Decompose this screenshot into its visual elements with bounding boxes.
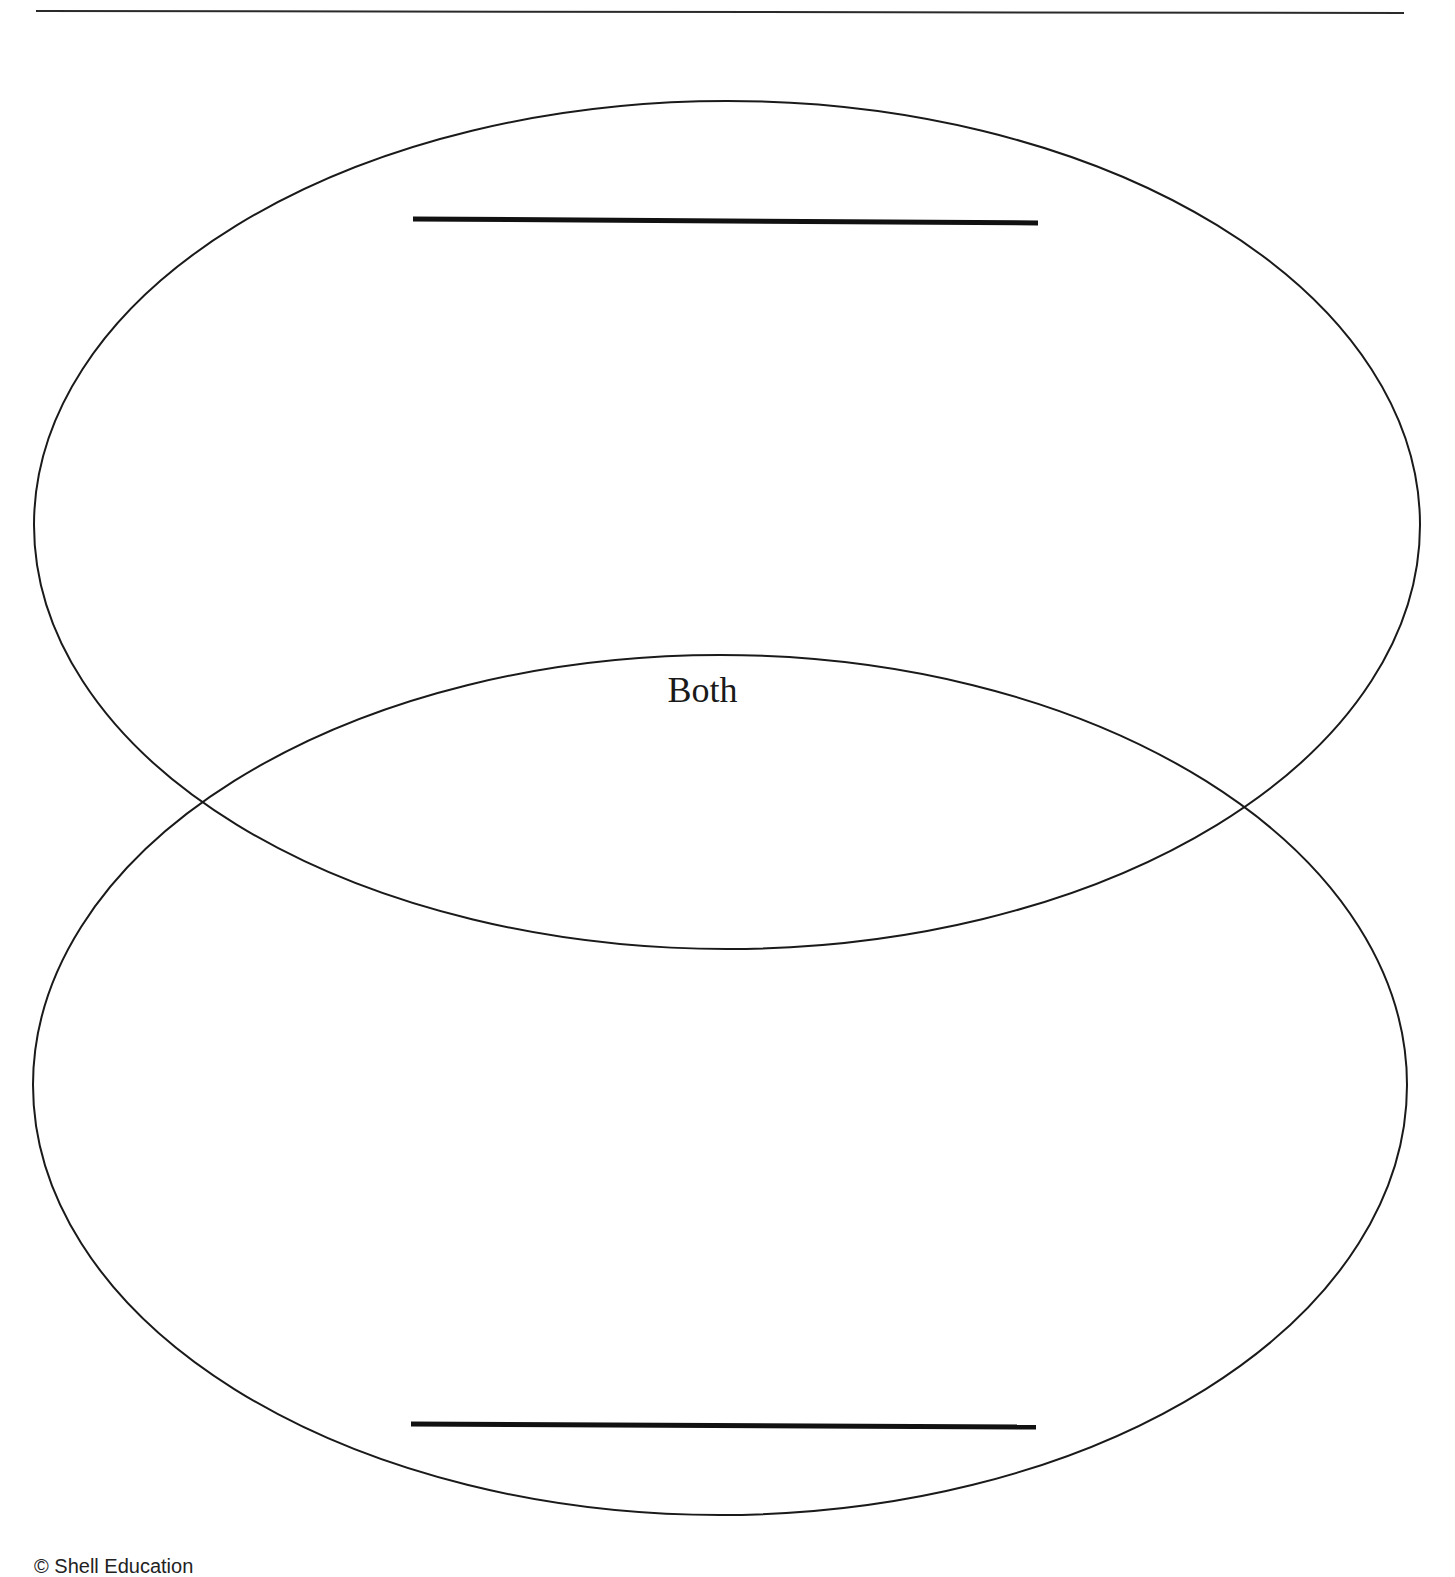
lower-title-write-line[interactable] [411,1424,1036,1427]
upper-title-write-line[interactable] [413,219,1038,223]
lower-circle [33,655,1407,1515]
upper-circle [34,101,1420,949]
copyright-footer: © Shell Education [34,1556,193,1576]
top-rule-divider [36,11,1404,13]
